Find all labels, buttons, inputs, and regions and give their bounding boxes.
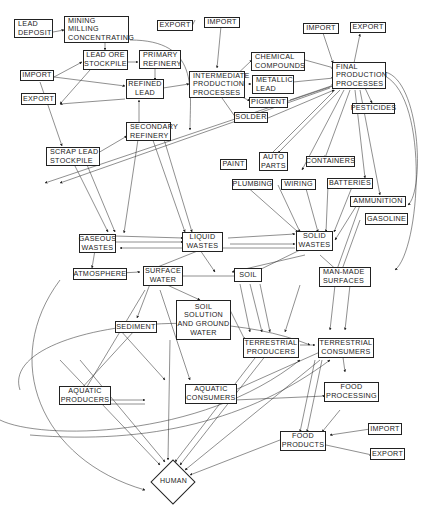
node-terrestrial-consumers: TERRESTRIAL CONSUMERS [318,338,374,358]
node-import-right: IMPORT [303,23,339,34]
node-liquid-wastes: LIQUID WASTES [182,232,223,252]
node-paint: PAINT [220,159,247,170]
node-plumbing: PLUMBING [232,179,273,190]
node-import-left: IMPORT [20,70,54,81]
node-soil: SOIL [234,268,262,282]
node-man-made-surfaces: MAN-MADE SURFACES [319,267,371,287]
node-intermediate-production-processes: INTERMEDIATE PRODUCTION PROCESSES [189,71,245,98]
node-mining-milling-concentrating: MINING MILLING CONCENTRATING [64,16,129,43]
node-secondary-refinery: SECONDARY REFINERY [126,122,171,141]
node-surface-water: SURFACE WATER [143,266,183,286]
node-gasoline: GASOLINE [365,213,408,225]
node-soil-solution-ground-water: SOIL SOLUTION AND GROUND WATER [176,300,231,340]
node-final-production-processes: FINAL PRODUCTION PROCESSES [332,62,386,89]
node-import-bottom: IMPORT [368,423,402,435]
node-export-right: EXPORT [350,22,386,33]
node-export-left: EXPORT [21,93,56,105]
node-ammunition: AMMUNITION [350,196,406,207]
node-aquatic-consumers: AQUATIC CONSUMERS [185,384,237,404]
node-gaseous-wastes: GASEOUS WASTES [79,234,116,253]
node-lead-deposit: LEAD DEPOSIT [14,19,53,38]
node-batteries: BATTERIES [327,178,373,189]
node-export-bottom: EXPORT [370,448,405,460]
node-containers: CONTAINERS [306,156,355,167]
human-label: HUMAN [160,477,187,484]
node-wiring: WIRING [281,179,316,190]
node-metallic-lead: METALLIC LEAD [252,75,294,94]
node-food-processing: FOOD PROCESSING [324,382,379,402]
node-food-products: FOOD PRODUCTS [280,431,326,451]
node-sediment: SEDIMENT [115,321,157,333]
node-terrestrial-producers: TERRESTRIAL PRODUCERS [243,338,299,358]
node-solid-wastes: SOLID WASTES [296,231,333,251]
node-pigment: PIGMENT [249,97,288,108]
node-atmosphere: ATMOSPHERE [73,268,127,280]
node-lead-ore-stockpile: LEAD ORE STOCKPILE [83,50,128,70]
lead-flow-diagram: LEAD DEPOSIT MINING MILLING CONCENTRATIN… [0,0,431,512]
node-auto-parts: AUTO PARTS [259,152,288,171]
node-primary-refinery: PRIMARY REFINERY [139,50,181,69]
node-import-top: IMPORT [204,17,240,28]
node-solder: SOLDER [234,112,268,123]
node-chemical-compounds: CHEMICAL COMPOUNDS [251,52,305,71]
node-export-top: EXPORT [157,20,193,31]
node-refined-lead: REFINED LEAD [126,79,164,99]
node-pesticides: PESTICIDES [352,103,395,114]
node-scrap-lead-stockpile: SCRAP LEAD STOCKPILE [46,147,100,166]
node-aquatic-producers: AQUATIC PRODUCERS [59,386,111,405]
